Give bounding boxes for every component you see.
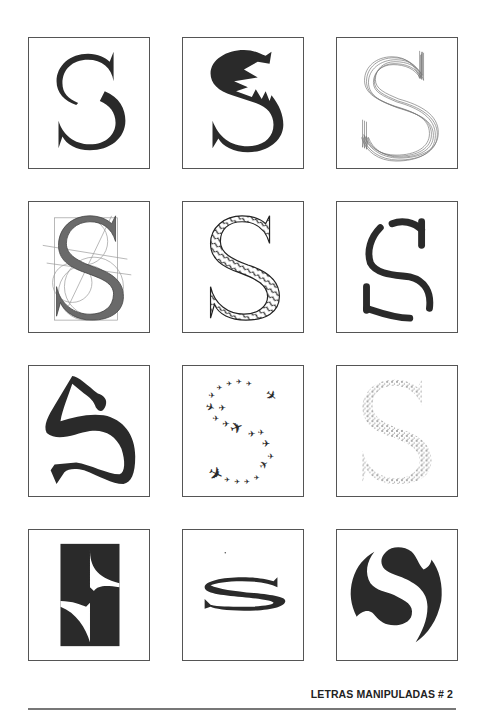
svg-text:✈: ✈ xyxy=(227,416,246,438)
tile-negative-space-s xyxy=(28,529,150,661)
svg-text:✈: ✈ xyxy=(258,428,265,437)
tile-jagged-s xyxy=(182,37,304,169)
tile-stipple-s xyxy=(336,365,458,497)
svg-text:✈: ✈ xyxy=(262,386,281,406)
brush-s-glyph-icon xyxy=(29,366,149,496)
svg-text:✈: ✈ xyxy=(248,429,255,439)
svg-text:✈: ✈ xyxy=(213,414,220,423)
tile-scribble-fill-s xyxy=(182,201,304,333)
tile-construction-s xyxy=(28,201,150,333)
tile-multi-outline-s xyxy=(336,37,458,169)
circle-s-glyph-icon xyxy=(337,530,457,660)
stipple-s-glyph-icon xyxy=(337,366,457,496)
svg-text:✈: ✈ xyxy=(268,452,275,461)
negative-space-s-glyph-icon xyxy=(29,530,149,660)
svg-text:✈: ✈ xyxy=(216,384,222,392)
flattened-s-glyph-icon xyxy=(183,530,303,660)
skeleton-s-glyph-icon xyxy=(337,202,457,332)
svg-text:✈: ✈ xyxy=(236,378,242,386)
svg-text:✈: ✈ xyxy=(234,478,240,486)
scribble-fill-s-glyph-icon xyxy=(183,202,303,332)
svg-text:✈: ✈ xyxy=(244,478,250,486)
footer-rule xyxy=(28,708,456,710)
tile-flattened-s xyxy=(182,529,304,661)
jagged-s-glyph-icon xyxy=(183,38,303,168)
tile-split-s xyxy=(28,37,150,169)
tile-brush-s xyxy=(28,365,150,497)
tile-airplanes-s: ✈ ✈ ✈ ✈ ✈ ✈ ✈ ✈ ✈ ✈ ✈ ✈ ✈ ✈ ✈ ✈ ✈ ✈ ✈ ✈ xyxy=(182,365,304,497)
svg-text:✈: ✈ xyxy=(204,400,217,415)
page-footer-title: LETRAS MANIPULADAS # 2 xyxy=(311,688,453,700)
construction-s-glyph-icon xyxy=(29,202,149,332)
tile-skeleton-s xyxy=(336,201,458,333)
multi-outline-s-glyph-icon xyxy=(337,38,457,168)
svg-text:✈: ✈ xyxy=(218,403,225,413)
svg-text:✈: ✈ xyxy=(262,438,270,449)
svg-text:✈: ✈ xyxy=(246,380,252,388)
svg-text:✈: ✈ xyxy=(254,474,260,482)
svg-text:✈: ✈ xyxy=(209,391,216,400)
tile-circle-s xyxy=(336,529,458,661)
airplanes-s-glyph-icon: ✈ ✈ ✈ ✈ ✈ ✈ ✈ ✈ ✈ ✈ ✈ ✈ ✈ ✈ ✈ ✈ ✈ ✈ ✈ ✈ xyxy=(183,366,303,496)
svg-text:✈: ✈ xyxy=(224,476,230,484)
svg-text:✈: ✈ xyxy=(226,380,232,388)
split-s-glyph-icon xyxy=(29,38,149,168)
